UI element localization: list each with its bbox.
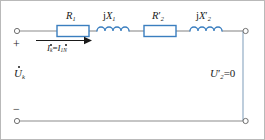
- resistor-r1-label: R1: [66, 11, 76, 22]
- current-phasor-dot-2: [65, 44, 67, 46]
- output-voltage-label: U′2=0: [210, 68, 235, 80]
- output-bottom-terminal[interactable]: [243, 118, 248, 123]
- current-phasor-dot-1: [50, 44, 52, 46]
- circuit-diagram-figure: R1 jX1 R′2 jX′2 Ik=I1N Uk U′2=0 + −: [0, 0, 265, 140]
- resistor-r2-prime-symbol: [144, 26, 176, 37]
- output-top-terminal[interactable]: [243, 28, 248, 33]
- polarity-plus-sign: +: [13, 38, 20, 50]
- input-voltage-label: Uk: [14, 68, 25, 80]
- input-voltage-phasor-dot: [18, 66, 20, 68]
- resistor-r1-symbol: [57, 26, 89, 37]
- polarity-minus-sign: −: [13, 103, 20, 115]
- inductor-x1-label: jX1: [103, 11, 116, 22]
- current-arrow-head: [84, 37, 92, 44]
- inductor-x2-prime-label: jX′2: [196, 11, 211, 22]
- resistor-r2-prime-label: R′2: [152, 11, 164, 22]
- inductor-x1-symbol: [97, 27, 129, 31]
- inductor-x2-prime-symbol: [190, 27, 222, 31]
- input-negative-terminal[interactable]: [14, 118, 19, 123]
- input-positive-terminal[interactable]: [14, 28, 19, 33]
